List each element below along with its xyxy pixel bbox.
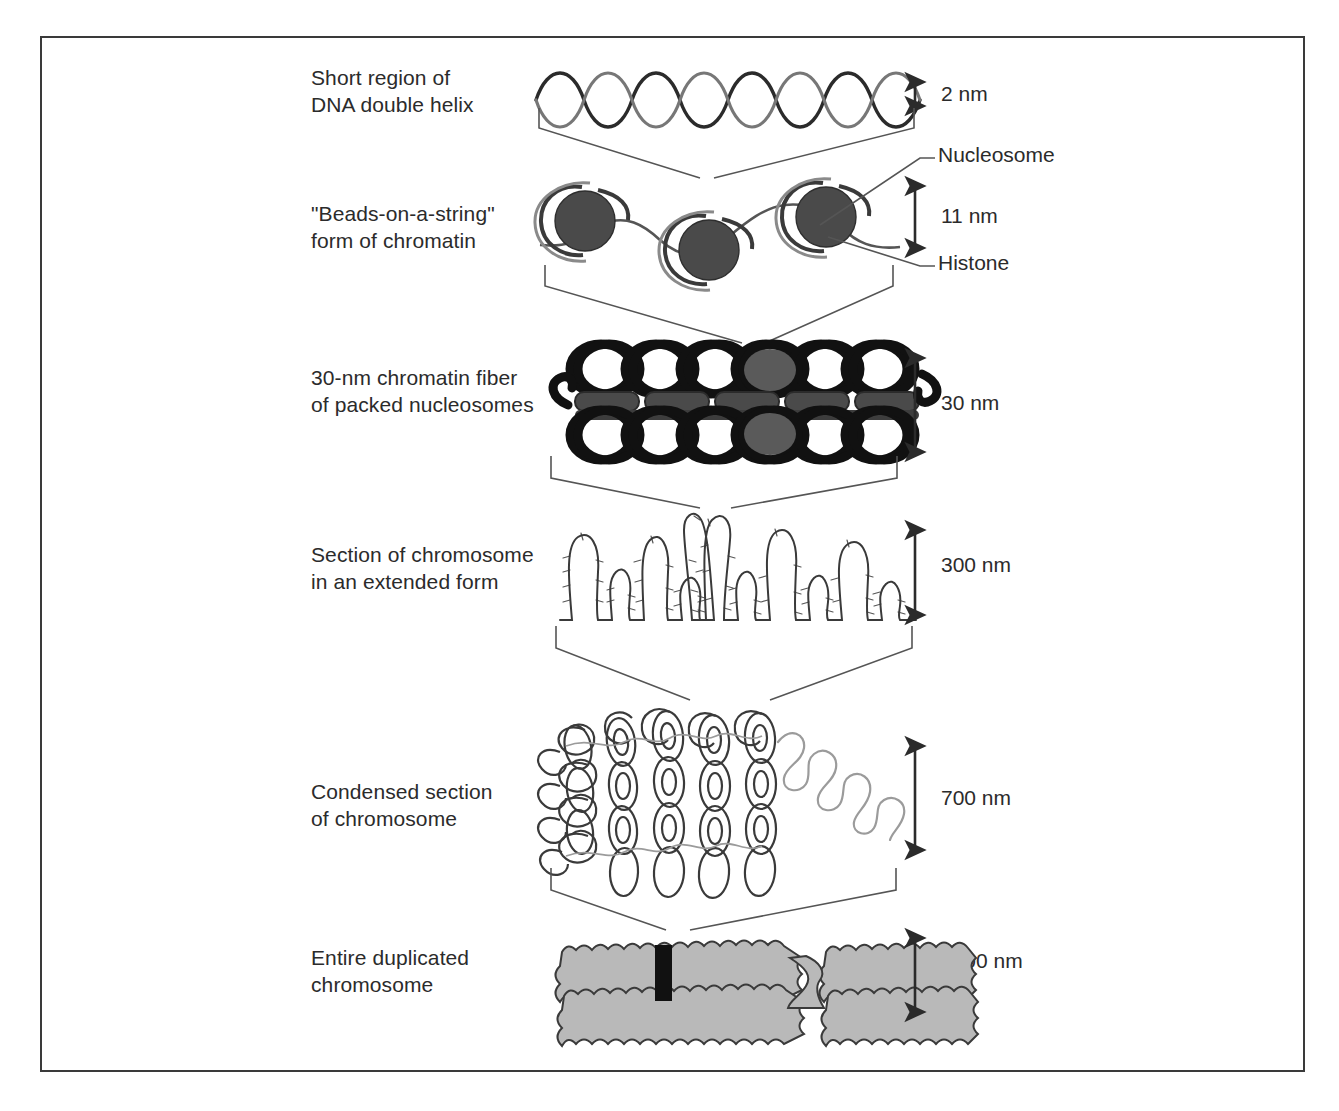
chromatin-packing-figure: Short region of DNA double helix "Beads-… [0,0,1339,1111]
scale-label-1400nm: 1400 nm [941,948,1023,974]
level-label-chromatin-fiber-30nm: 30-nm chromatin fiber of packed nucleoso… [311,364,534,418]
callout-label-histone: Histone [938,250,1009,276]
figure-frame [40,36,1305,1072]
scale-label-30nm: 30 nm [941,390,999,416]
scale-label-2nm: 2 nm [941,81,988,107]
level-label-condensed-chromosome-section: Condensed section of chromosome [311,778,493,832]
scale-label-700nm: 700 nm [941,785,1011,811]
scale-label-11nm: 11 nm [941,203,998,229]
scale-label-300nm: 300 nm [941,552,1011,578]
level-label-beads-on-a-string: "Beads-on-a-string" form of chromatin [311,200,495,254]
callout-label-nucleosome: Nucleosome [938,142,1055,168]
level-label-dna-double-helix: Short region of DNA double helix [311,64,474,118]
level-label-extended-chromosome-section: Section of chromosome in an extended for… [311,541,534,595]
level-label-duplicated-chromosome: Entire duplicated chromosome [311,944,469,998]
